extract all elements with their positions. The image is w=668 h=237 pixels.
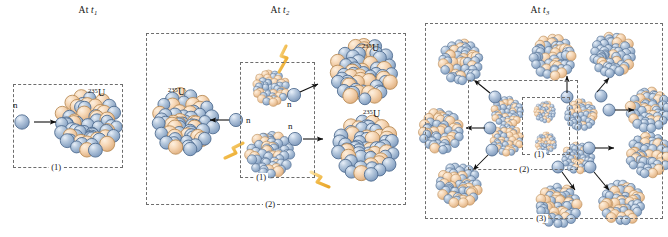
neutron-label-n-lower: n: [288, 122, 293, 131]
generation-1-box-nested: [240, 62, 315, 178]
generation-1-box-nested-2: [522, 97, 570, 155]
neutron-label-n: n: [13, 101, 18, 110]
neutron-label-n-upper: n: [287, 100, 292, 109]
box-label-gen-1-nested: (1): [254, 173, 268, 182]
nucleus-label-u235-top-right: 235U: [362, 41, 379, 53]
box-label-gen-1-nested-2: (1): [532, 150, 546, 159]
box-label-gen-2: (2): [263, 200, 277, 209]
box-label-gen-1: (1): [49, 163, 63, 172]
box-label-gen-3: (3): [534, 214, 548, 223]
generation-1-box: [13, 84, 123, 168]
panel-2-title: At t2: [240, 5, 320, 16]
nucleon: [663, 103, 668, 111]
nucleus-label-u235: 235U: [88, 86, 105, 98]
nucleon: [554, 219, 562, 227]
nucleus-label-u235-left: 235U: [168, 85, 185, 97]
nucleus-label-u235-bottom-right: 235U: [363, 107, 380, 119]
panel-3-title: At t3: [500, 5, 580, 16]
neutron-label-n-left: n: [246, 116, 251, 125]
nucleon: [559, 219, 567, 227]
panel-1-title: At t1: [48, 5, 128, 16]
fission-chain-reaction-figure: At t1 (1) 235U n At t2 (2) (1) 235U 235U…: [0, 0, 668, 237]
box-label-gen-2-nested: (2): [517, 165, 531, 174]
